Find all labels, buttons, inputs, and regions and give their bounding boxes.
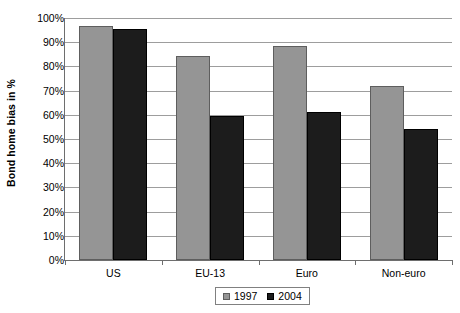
bar-eu-13-2004	[210, 116, 244, 260]
legend-swatch-icon-2004	[267, 293, 274, 300]
bar-non-euro-2004	[404, 129, 438, 260]
y-tick-label: 40%	[26, 158, 64, 169]
x-tick-mark	[355, 260, 356, 265]
y-tick-label: 80%	[26, 61, 64, 72]
y-tick-label: 60%	[26, 110, 64, 121]
bar-us-2004	[113, 29, 147, 260]
y-tick-label: 30%	[26, 182, 64, 193]
y-axis-title: Bond home bias in %	[0, 0, 22, 265]
y-axis-ticks: 0%10%20%30%40%50%60%70%80%90%100%	[20, 0, 64, 313]
y-tick-label: 90%	[26, 37, 64, 48]
bar-euro-1997	[273, 46, 307, 260]
chart-legend: 19972004	[215, 287, 310, 305]
x-tick-label-us: US	[106, 267, 121, 279]
x-tick-mark	[259, 260, 260, 265]
legend-label-1997: 1997	[234, 291, 257, 302]
legend-item-1997[interactable]: 1997	[223, 291, 257, 302]
y-tick-label: 100%	[26, 13, 64, 24]
y-tick-label: 0%	[26, 255, 64, 266]
x-tick-mark	[452, 260, 453, 265]
bar-eu-13-1997	[176, 56, 210, 260]
bar-us-1997	[79, 26, 113, 260]
y-tick-label: 20%	[26, 206, 64, 217]
x-tick-label-eu-13: EU-13	[195, 267, 225, 279]
x-tick-label-non-euro: Non-euro	[382, 267, 426, 279]
y-tick-label: 10%	[26, 231, 64, 242]
bar-non-euro-1997	[370, 86, 404, 260]
x-tick-label-euro: Euro	[296, 267, 318, 279]
bar-euro-2004	[307, 112, 341, 260]
plot-area	[65, 18, 452, 260]
legend-swatch-icon-1997	[223, 293, 230, 300]
legend-label-2004: 2004	[278, 291, 301, 302]
x-tick-mark	[65, 260, 66, 265]
y-tick-label: 70%	[26, 85, 64, 96]
x-tick-mark	[162, 260, 163, 265]
gridline	[65, 18, 452, 19]
bar-chart: Bond home bias in % 0%10%20%30%40%50%60%…	[0, 0, 460, 313]
legend-item-2004[interactable]: 2004	[267, 291, 301, 302]
y-axis-title-text: Bond home bias in %	[5, 78, 17, 186]
y-tick-label: 50%	[26, 134, 64, 145]
